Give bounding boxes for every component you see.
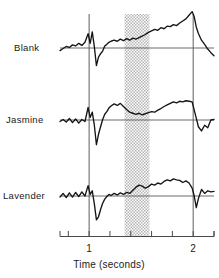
trace-label-jasmine: Jasmine (6, 114, 43, 125)
trace-label-blank: Blank (14, 42, 39, 53)
waveform-figure: Blank Jasmine Lavender 1 2 Time (seconds… (0, 0, 219, 278)
x-tick-label-1: 1 (86, 243, 92, 254)
x-tick-label-2: 2 (190, 243, 196, 254)
x-axis-title: Time (seconds) (73, 259, 144, 270)
trace-label-lavender: Lavender (3, 190, 45, 201)
stimulus-window-band (125, 14, 150, 236)
